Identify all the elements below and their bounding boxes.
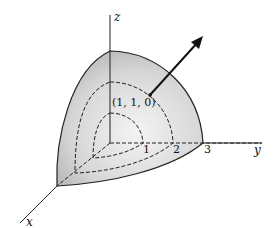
z-axis-label: z bbox=[113, 10, 121, 24]
tick-2: 2 bbox=[173, 143, 180, 156]
tick-1: 1 bbox=[143, 143, 150, 156]
point-label: (1, 1, 0) bbox=[112, 96, 156, 109]
sphere-octant-diagram: (1, 1, 0) 1 2 3 y z x bbox=[0, 0, 275, 228]
x-axis-label: x bbox=[26, 215, 33, 228]
tick-3: 3 bbox=[204, 143, 211, 156]
y-axis-label: y bbox=[253, 143, 261, 157]
